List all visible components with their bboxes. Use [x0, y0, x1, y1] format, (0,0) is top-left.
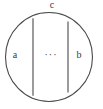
diagram-canvas: c a ··· b	[0, 0, 103, 109]
label-c: c	[46, 0, 58, 10]
label-ellipsis: ···	[40, 50, 62, 60]
label-a: a	[9, 50, 21, 60]
label-b: b	[73, 50, 85, 60]
